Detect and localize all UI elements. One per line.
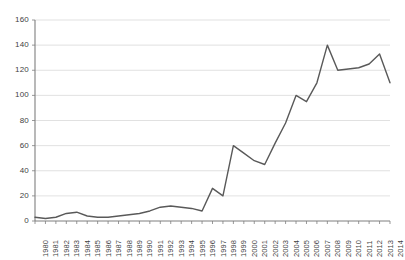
x-axis-tick-label: 2005 <box>303 240 311 257</box>
x-axis-tick-label: 1999 <box>240 240 248 257</box>
y-axis-tick-label: 160 <box>15 16 29 24</box>
x-axis-tick-label: 2010 <box>355 240 363 257</box>
y-axis-tick-label: 120 <box>15 66 29 74</box>
x-axis-tick-label: 2004 <box>293 240 301 257</box>
x-axis-tick-label: 1980 <box>42 240 50 257</box>
x-axis-tick-label: 1986 <box>105 240 113 257</box>
y-axis-tick-label: 40 <box>20 167 29 175</box>
y-axis-tick-label: 20 <box>20 192 29 200</box>
x-axis-tick-label: 1995 <box>199 240 207 257</box>
x-axis-tick-label: 1990 <box>146 240 154 257</box>
x-axis-tick-label: 2009 <box>345 240 353 257</box>
x-axis-tick-label: 1991 <box>157 240 165 257</box>
chart-canvas <box>35 20 390 221</box>
x-axis-tick-label: 1996 <box>209 240 217 257</box>
x-axis-tick-label: 1983 <box>73 240 81 257</box>
x-axis-tick-label: 1985 <box>94 240 102 257</box>
y-axis-tick-label: 140 <box>15 41 29 49</box>
x-axis-tick-label: 1981 <box>52 240 60 257</box>
x-axis-tick-label: 2012 <box>376 240 384 257</box>
x-axis-tick-labels: 1980198119821983198419851986198719881989… <box>35 223 390 260</box>
x-axis-tick-label: 2007 <box>324 240 332 257</box>
x-axis-tick-label: 1994 <box>188 240 196 257</box>
x-axis-tick-label: 1993 <box>178 240 186 257</box>
x-axis-tick-label: 2006 <box>313 240 321 257</box>
data-line-series-1 <box>35 45 390 218</box>
x-axis-tick-label: 1987 <box>115 240 123 257</box>
x-axis-tick-label: 2001 <box>261 240 269 257</box>
x-axis-tick-label: 1998 <box>230 240 238 257</box>
x-axis-tick-label: 2008 <box>334 240 342 257</box>
x-axis-tick-label: 2002 <box>272 240 280 257</box>
x-axis-tick-label: 2011 <box>366 240 374 257</box>
x-axis-tick-label: 2014 <box>397 240 405 257</box>
x-axis-tick-label: 2000 <box>251 240 259 257</box>
y-axis-tick-label: 100 <box>15 91 29 99</box>
x-axis-tick-label: 1984 <box>84 240 92 257</box>
x-axis-tick-label: 1988 <box>126 240 134 257</box>
y-axis-tick-labels: 160140120100806040200 <box>0 0 33 221</box>
y-axis-tick-label: 80 <box>20 117 29 125</box>
x-axis-tick-label: 1997 <box>220 240 228 257</box>
x-axis-tick-label: 1992 <box>167 240 175 257</box>
x-axis-tick-label: 2003 <box>282 240 290 257</box>
y-axis-tick-label: 0 <box>24 217 29 225</box>
x-axis-tick-label: 2013 <box>387 240 395 257</box>
x-axis-tick-label: 1982 <box>63 240 71 257</box>
y-axis-tick-label: 60 <box>20 142 29 150</box>
plot-area <box>35 20 390 221</box>
x-axis-tick-label: 1989 <box>136 240 144 257</box>
